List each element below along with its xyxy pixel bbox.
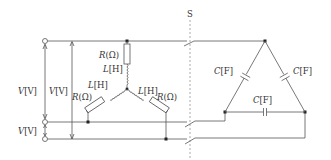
- node-star-right: [165, 138, 168, 141]
- voltage-label-inner: V[V]: [49, 86, 68, 96]
- label-cap-bottom: C[F]: [253, 95, 272, 105]
- label-left-resistor: R(Ω): [71, 92, 92, 102]
- label-cap-left: C[F]: [214, 66, 233, 76]
- circuit-diagram: V[V] V[V] V[V] R(Ω) L[H] L[H] R(Ω) L[H] …: [0, 0, 331, 160]
- capacitor-bottom: [225, 108, 305, 116]
- label-top-inductor: L[H]: [102, 64, 123, 74]
- switch-contact-b[interactable]: [185, 112, 225, 127]
- label-cap-right: C[F]: [293, 66, 312, 76]
- label-left-inductor: L[H]: [87, 80, 108, 90]
- voltage-arrow-ab: [43, 44, 47, 119]
- label-right-inductor: L[H]: [137, 86, 158, 96]
- voltage-arrow-bc: [44, 125, 47, 136]
- terminal-a: [43, 39, 48, 44]
- resistor-top: [124, 44, 130, 64]
- terminal-b: [43, 120, 48, 125]
- terminal-c: [43, 137, 48, 142]
- label-right-resistor: R(Ω): [156, 92, 177, 102]
- switch-contact-c[interactable]: [185, 112, 305, 144]
- voltage-arrow-ac: [70, 42, 74, 140]
- voltage-label-bottom: V[V]: [18, 126, 37, 136]
- label-top-resistor: R(Ω): [98, 50, 119, 60]
- star-top-leg: [124, 41, 130, 88]
- node-star-left: [87, 121, 90, 124]
- switch-label: S: [187, 9, 193, 19]
- voltage-label-outer: V[V]: [18, 86, 37, 96]
- inductor-top: [127, 64, 128, 88]
- inductor-left: [110, 89, 127, 100]
- switch-contact-a[interactable]: [184, 41, 265, 46]
